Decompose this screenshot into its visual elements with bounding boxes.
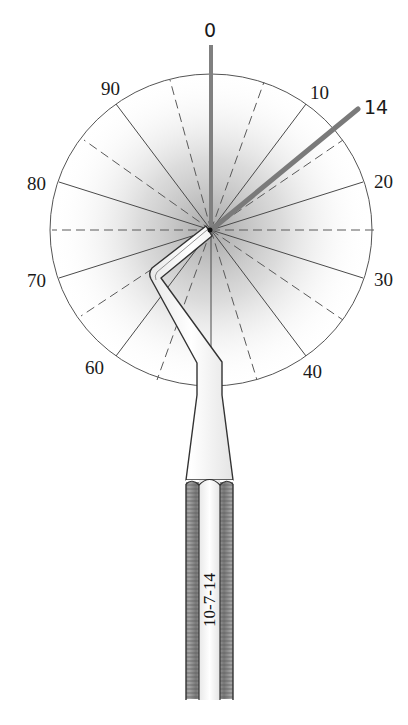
dial-label-90: 90 xyxy=(101,79,120,98)
dial-label-80: 80 xyxy=(27,174,46,193)
dial-label-20: 20 xyxy=(374,172,393,191)
dial-label-0: 0 xyxy=(204,21,216,40)
dial-label-10: 10 xyxy=(310,83,329,102)
dial-label-30: 30 xyxy=(374,270,393,289)
dial-label-14: 14 xyxy=(364,98,388,117)
dial-label-40: 40 xyxy=(303,362,322,381)
diagram-canvas: 0 10 14 20 30 40 60 70 80 90 10-7-14 xyxy=(0,0,408,725)
instrument-tip xyxy=(208,228,213,233)
dial-label-70: 70 xyxy=(27,271,46,290)
handle-marking: 10-7-14 xyxy=(198,545,222,655)
handle-marking-text: 10-7-14 xyxy=(200,573,220,627)
dial-label-60: 60 xyxy=(85,358,104,377)
